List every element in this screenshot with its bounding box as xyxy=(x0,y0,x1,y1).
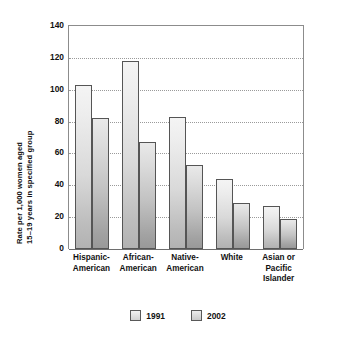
x-axis-label-line: Pacific xyxy=(249,264,309,275)
y-axis-tick-labels: 140120100806040200 xyxy=(38,0,64,338)
bar-group xyxy=(263,26,297,249)
bar-1991-asian-or-pacific-islander[interactable] xyxy=(263,206,280,249)
y-axis-tick-40: 40 xyxy=(38,179,64,189)
plot-area xyxy=(68,25,304,249)
legend-item-1991[interactable]: 1991 xyxy=(130,310,165,321)
legend: 19912002 xyxy=(0,310,356,321)
y-axis-tick-0: 0 xyxy=(38,243,64,253)
bar-2002-african-american[interactable] xyxy=(139,142,156,249)
x-axis-category-labels: Hispanic-AmericanAfrican-AmericanNative-… xyxy=(68,253,302,303)
bar-1991-white[interactable] xyxy=(216,179,233,249)
bar-group xyxy=(122,26,156,249)
x-axis-label-line: American xyxy=(155,264,215,275)
y-axis-tick-140: 140 xyxy=(38,20,64,30)
x-axis-label-line: Islander xyxy=(249,274,309,285)
legend-swatch-2002 xyxy=(191,310,202,321)
y-axis-tick-100: 100 xyxy=(38,84,64,94)
bars-layer xyxy=(69,26,303,249)
y-axis-tick-80: 80 xyxy=(38,116,64,126)
x-axis-label-asian-or-pacific-islander: Asian orPacificIslander xyxy=(249,253,309,285)
bar-2002-native-american[interactable] xyxy=(186,165,203,249)
legend-label-1991: 1991 xyxy=(146,311,165,321)
x-axis-baseline xyxy=(69,249,303,250)
y-axis-title-line1: Rate per 1,000 women aged xyxy=(15,142,24,244)
y-axis-tick-20: 20 xyxy=(38,211,64,221)
bar-group xyxy=(75,26,109,249)
bar-1991-native-american[interactable] xyxy=(169,117,186,249)
bar-group xyxy=(216,26,250,249)
y-axis-tick-60: 60 xyxy=(38,147,64,157)
y-axis-tick-120: 120 xyxy=(38,52,64,62)
x-axis-label-line: Asian or xyxy=(249,253,309,264)
legend-label-2002: 2002 xyxy=(207,311,226,321)
y-axis-title-line2: 15–19 years in specified group xyxy=(25,130,34,244)
legend-item-2002[interactable]: 2002 xyxy=(191,310,226,321)
bar-2002-hispanic-american[interactable] xyxy=(92,118,109,249)
bar-1991-african-american[interactable] xyxy=(122,61,139,249)
bar-2002-white[interactable] xyxy=(233,203,250,249)
bar-2002-asian-or-pacific-islander[interactable] xyxy=(280,219,297,249)
bar-chart: Rate per 1,000 women aged 15–19 years in… xyxy=(0,0,356,338)
bar-1991-hispanic-american[interactable] xyxy=(75,85,92,249)
legend-swatch-1991 xyxy=(130,310,141,321)
bar-group xyxy=(169,26,203,249)
